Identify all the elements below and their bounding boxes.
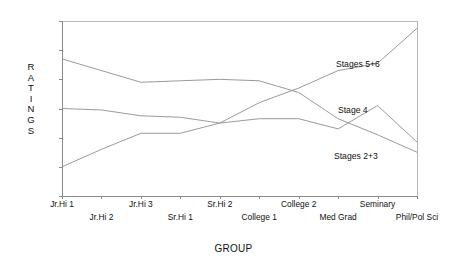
series-label-stage-4: Stage 4 xyxy=(338,106,368,115)
series-label-stages-5-6: Stages 5+6 xyxy=(336,60,380,69)
series-lines xyxy=(0,0,467,272)
series-line-stages-5-6 xyxy=(62,28,417,167)
x-axis-title: GROUP xyxy=(0,243,467,254)
series-label-stages-2-3: Stages 2+3 xyxy=(334,152,378,161)
chart-figure: RATINGS 10203040506070 Jr.Hi 1Jr.Hi 2Jr.… xyxy=(0,0,467,272)
